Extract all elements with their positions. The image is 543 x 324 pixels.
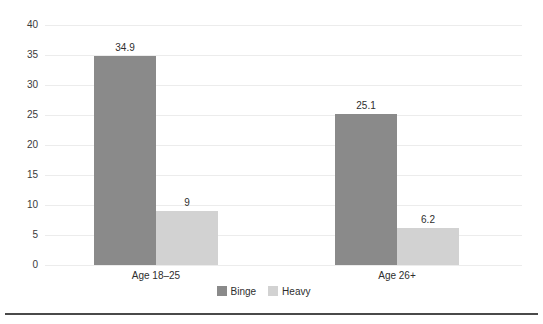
x-axis-category-0: Age 18–25 [96,270,216,282]
legend-item-heavy: Heavy [268,286,310,297]
bar-heavy-group-0 [156,211,218,265]
value-label-heavy-group-1: 6.2 [397,214,459,226]
bar-binge-group-1 [335,114,397,265]
legend-label-heavy: Heavy [282,286,310,297]
value-label-binge-group-0: 34.9 [94,42,156,54]
heavy-swatch-icon [268,286,278,296]
value-label-heavy-group-0: 9 [156,197,218,209]
legend-label-binge: Binge [231,286,257,297]
value-label-binge-group-1: 25.1 [335,100,397,112]
y-axis-tick-35: 35 [0,49,38,61]
y-axis-tick-5: 5 [0,229,38,241]
x-axis-category-1: Age 26+ [337,270,457,282]
binge-swatch-icon [217,286,227,296]
legend: Binge Heavy [0,284,527,298]
y-axis-tick-20: 20 [0,139,38,151]
y-axis-tick-25: 25 [0,109,38,121]
bar-chart-figure: 051015202530354034.99Age 18–2525.16.2Age… [0,0,543,324]
gridline-y-0 [45,265,522,266]
y-axis-tick-10: 10 [0,199,38,211]
y-axis-tick-30: 30 [0,79,38,91]
y-axis-tick-15: 15 [0,169,38,181]
bar-binge-group-0 [94,56,156,265]
bottom-divider [5,313,538,315]
y-axis-tick-0: 0 [0,259,38,271]
gridline-y-40 [45,25,522,26]
bar-heavy-group-1 [397,228,459,265]
legend-item-binge: Binge [217,286,257,297]
y-axis-tick-40: 40 [0,19,38,31]
